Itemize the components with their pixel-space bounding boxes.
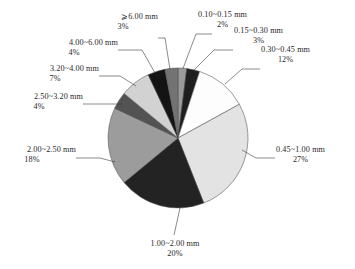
pie-slices bbox=[108, 68, 248, 208]
slice-label-name: 0.15~0.30 mm bbox=[234, 26, 283, 36]
slice-label-percent: 4% bbox=[0, 102, 83, 112]
slice-label-0-45-1-00: 0.45~1.00 mm 27% bbox=[276, 145, 325, 166]
leader-line-0 bbox=[183, 34, 212, 69]
slice-label-percent: 27% bbox=[276, 155, 325, 165]
slice-label-0-30-0-45: 0.30~0.45 mm 12% bbox=[261, 45, 310, 66]
slice-label-name: 4.00~6.00 mm bbox=[30, 38, 118, 48]
slice-label-1-00-2-00: 1.00~2.00 mm 20% bbox=[131, 239, 219, 260]
slice-label-percent: 7% bbox=[11, 74, 99, 84]
slice-label-name: 2.50~3.20 mm bbox=[0, 92, 83, 102]
slice-label-name: 2.00~2.50 mm bbox=[0, 145, 76, 155]
slice-label-percent: 18% bbox=[0, 155, 76, 165]
slice-label-percent: 3% bbox=[88, 22, 158, 32]
slice-label-name: 0.45~1.00 mm bbox=[276, 145, 325, 155]
slice-label-2-50-3-20: 2.50~3.20 mm 4% bbox=[0, 92, 83, 113]
leader-line-7 bbox=[99, 76, 136, 86]
leader-line-8 bbox=[118, 50, 155, 73]
slice-label-0-15-0-30: 0.15~0.30 mm 3% bbox=[234, 26, 283, 47]
slice-label-name: 0.10~0.15 mm bbox=[198, 10, 247, 20]
leader-line-9 bbox=[158, 38, 170, 70]
slice-label-ge-6-00: ⩾6.00 mm 3% bbox=[88, 12, 158, 33]
slice-label-name: ⩾6.00 mm bbox=[88, 12, 158, 22]
slice-label-4-00-6-00: 4.00~6.00 mm 4% bbox=[30, 38, 118, 59]
slice-label-percent: 12% bbox=[261, 55, 310, 65]
leader-line-5 bbox=[76, 158, 115, 162]
slice-label-percent: 4% bbox=[30, 48, 118, 58]
slice-label-name: 1.00~2.00 mm bbox=[131, 239, 219, 249]
slice-label-name: 3.20~4.00 mm bbox=[11, 64, 99, 74]
slice-label-name: 0.30~0.45 mm bbox=[261, 45, 310, 55]
leader-line-1 bbox=[194, 50, 234, 71]
slice-label-percent: 20% bbox=[131, 249, 219, 259]
leader-line-4 bbox=[174, 208, 180, 235]
slice-label-3-20-4-00: 3.20~4.00 mm 7% bbox=[11, 64, 99, 85]
slice-label-2-00-2-50: 2.00~2.50 mm 18% bbox=[0, 145, 76, 166]
leader-line-2 bbox=[225, 69, 260, 84]
pie-chart-figure: 0.10~0.15 mm 2% 0.15~0.30 mm 3% 0.30~0.4… bbox=[0, 0, 355, 269]
